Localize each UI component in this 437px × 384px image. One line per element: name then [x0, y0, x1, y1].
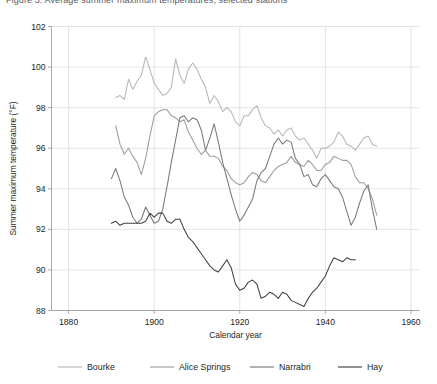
y-tick-label: 94	[36, 184, 46, 194]
series-line-narrabri	[111, 116, 376, 230]
y-tick-label: 96	[36, 143, 46, 153]
legend-label-narrabri: Narrabri	[279, 362, 311, 372]
line-chart: 88909294969810010218801900192019401960Su…	[0, 0, 437, 384]
chart-figure: Figure 3: Average summer maximum tempera…	[0, 0, 437, 384]
x-tick-label: 1880	[59, 317, 78, 327]
legend-label-hay: Hay	[367, 362, 383, 372]
legend-label-alice-springs: Alice Springs	[179, 362, 231, 372]
y-tick-label: 88	[36, 306, 46, 316]
y-axis-title: Summer maximum temperature (°F)	[8, 101, 18, 235]
y-tick-label: 102	[31, 22, 46, 32]
series-line-alice-springs	[116, 110, 377, 215]
y-tick-label: 100	[31, 62, 46, 72]
y-tick-label: 98	[36, 103, 46, 113]
x-tick-label: 1960	[401, 317, 420, 327]
x-axis-title: Calendar year	[209, 330, 262, 340]
x-tick-label: 1900	[145, 317, 164, 327]
y-tick-label: 92	[36, 224, 46, 234]
x-tick-label: 1920	[230, 317, 249, 327]
x-tick-label: 1940	[316, 317, 335, 327]
series-line-hay	[111, 213, 355, 306]
legend-label-bourke: Bourke	[87, 362, 115, 372]
y-tick-label: 90	[36, 265, 46, 275]
